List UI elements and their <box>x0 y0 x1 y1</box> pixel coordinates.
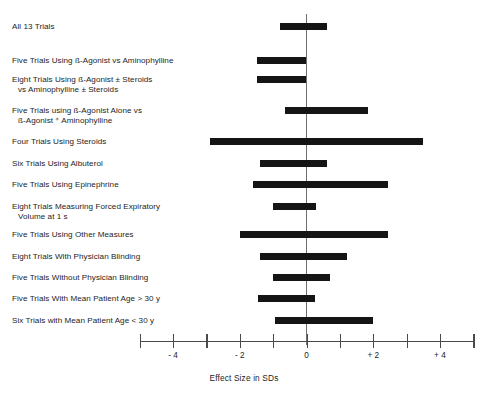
axis-tick <box>240 334 241 348</box>
axis-tick <box>140 334 141 348</box>
axis-tick-label: 0 <box>304 351 309 360</box>
axis-tick-label: + 4 <box>434 351 446 360</box>
axis-tick <box>473 334 474 348</box>
axis-tick <box>273 334 274 348</box>
axis-tick <box>206 334 207 348</box>
axis-title: Effect Size in SDs <box>0 373 488 383</box>
forest-plot-figure: All 13 TrialsFive Trials Using ß-Agonist… <box>0 0 488 397</box>
axis-tick-label: - 4 <box>168 351 178 360</box>
axis-tick-label: + 2 <box>367 351 379 360</box>
axis-tick <box>173 334 174 348</box>
axis-tick <box>373 334 374 348</box>
x-axis: - 4- 20+ 2+ 4 Effect Size in SDs <box>0 0 488 397</box>
axis-tick <box>307 334 308 348</box>
axis-tick-label: - 2 <box>235 351 245 360</box>
axis-tick <box>407 334 408 348</box>
axis-tick <box>440 334 441 348</box>
axis-tick <box>340 334 341 348</box>
